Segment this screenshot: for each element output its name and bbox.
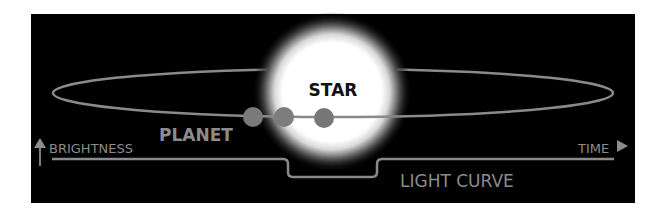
planet-position-2 (274, 107, 294, 127)
planet-position-3 (314, 108, 334, 128)
light-curve-label: LIGHT CURVE (400, 171, 514, 191)
transit-diagram: STAR PLANET BRIGHTNESS TIME LIGHT CURVE (0, 0, 665, 218)
brightness-label: BRIGHTNESS (49, 141, 133, 156)
planet-position-1 (243, 107, 263, 127)
time-label: TIME (577, 141, 609, 156)
planet-label: PLANET (159, 125, 233, 145)
star-label: STAR (309, 80, 358, 100)
